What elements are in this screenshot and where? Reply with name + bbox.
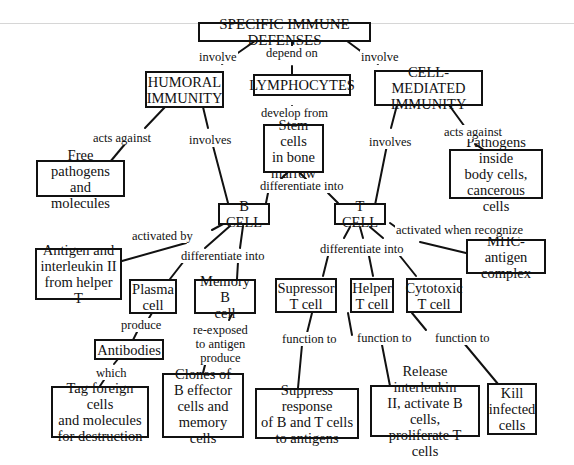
node-stem-cells: Stem cells in bone marrow xyxy=(263,124,324,173)
node-release-interleukin: Release interleukin II, activate B cells… xyxy=(370,385,480,437)
node-antibodies: Antibodies xyxy=(94,339,164,360)
node-helper-t-cell: Helper T cell xyxy=(350,278,394,313)
node-t-cell: T CELL xyxy=(334,203,386,225)
link-label-activated-when-recognize: activated when recognize xyxy=(395,223,524,237)
link-label-depend-on: depend on xyxy=(265,46,319,60)
node-kill-infected-cells: Kill infected cells xyxy=(487,383,537,435)
link-label-which: which xyxy=(95,366,128,380)
node-cell-mediated-immunity: CELL-MEDIATED IMMUNITY xyxy=(374,70,483,106)
node-humoral-immunity: HUMORAL IMMUNITY xyxy=(145,71,224,108)
link-label-involve-cell-mediated: involve xyxy=(360,50,400,64)
node-lymphocytes: LYMPHOCYTES xyxy=(253,74,351,96)
link-label-acts-against-humoral: acts against xyxy=(92,131,152,145)
node-supressor-t-cell: Supressor T cell xyxy=(275,278,337,313)
node-tag-foreign-cells: Tag foreign cells and molecules for dest… xyxy=(51,386,149,438)
link-label-involve-humoral: involve xyxy=(198,50,238,64)
node-specific-immune-defenses: SPECIFIC IMMUNE DEFENSES xyxy=(198,22,371,42)
node-b-cell: B CELL xyxy=(218,203,270,225)
link-label-involves-cell-mediated: involves xyxy=(368,135,412,149)
link-label-develop-from: develop from xyxy=(260,106,329,120)
link-label-differentiate-into-tcell: differentiate into xyxy=(319,242,404,256)
link-label-function-to-helper: function to xyxy=(356,331,413,345)
link-label-produce: produce xyxy=(120,318,162,332)
link-label-function-to-supressor: function to xyxy=(281,332,338,346)
link-label-involves-humoral: involves xyxy=(188,133,232,147)
node-cytotoxic-t-cell: Cytotoxic T cell xyxy=(406,278,462,313)
link-label-differentiate-into-stem: differentiate into xyxy=(259,179,344,193)
node-clones: Clones of B effector cells and memory ce… xyxy=(162,373,244,438)
node-memory-b-cell: Memory B cell xyxy=(194,279,256,314)
node-mhc-antigen-complex: MHC-antigen complex xyxy=(466,239,546,274)
link-label-function-to-cytotoxic: function to xyxy=(434,331,491,345)
link-label-re-exposed: re-exposed to antigen produce xyxy=(192,323,249,365)
link-label-differentiate-into-bcell: differentiate into xyxy=(180,249,265,263)
node-free-pathogens: Free pathogens and molecules xyxy=(36,160,125,197)
node-plasma-cell: Plasma cell xyxy=(129,279,177,314)
node-antigen-interleukin: Antigen and interleukin II from helper T xyxy=(35,248,122,300)
link-label-activated-by: activated by xyxy=(131,229,194,243)
node-suppress-response: Suppress response of B and T cells to an… xyxy=(255,388,359,439)
link-label-acts-against-cell-mediated: acts against xyxy=(443,125,503,139)
concept-map-canvas: SPECIFIC IMMUNE DEFENSES HUMORAL IMMUNIT… xyxy=(0,0,574,465)
node-pathogens-inside-cells: Pathogens inside body cells, cancerous c… xyxy=(449,149,543,199)
